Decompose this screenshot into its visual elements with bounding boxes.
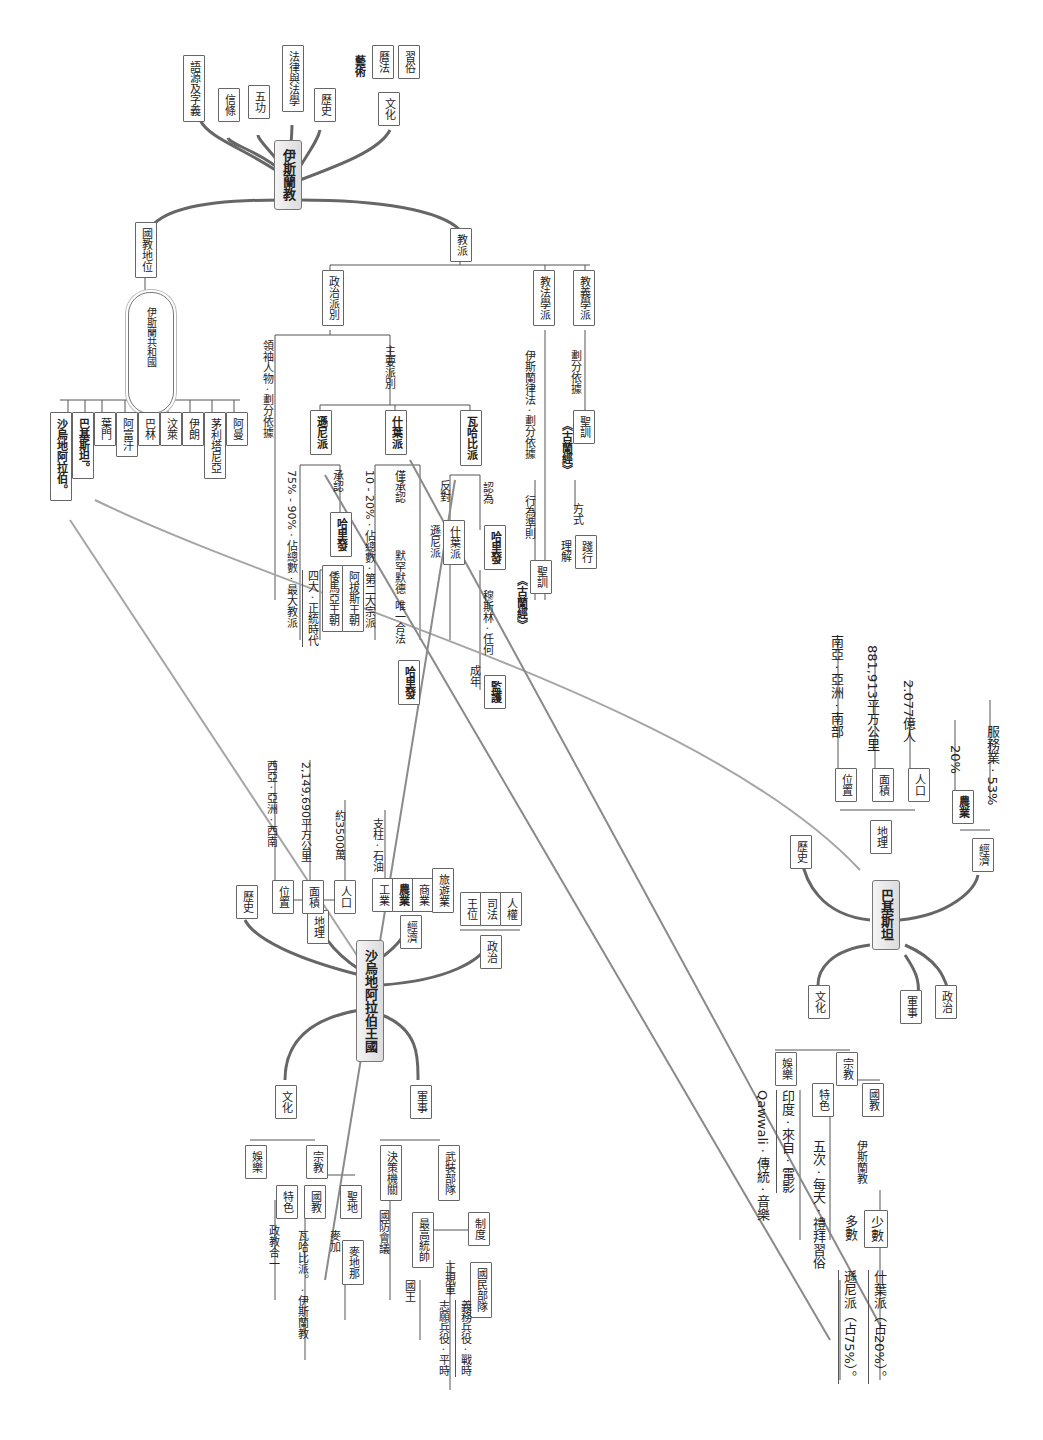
pak-node-population[interactable]: 人口 xyxy=(908,768,930,802)
node-shia-sub[interactable]: 什葉派 xyxy=(443,520,465,565)
node-wahhabi[interactable]: 瓦哈比派 xyxy=(460,410,482,466)
node-sunni[interactable]: 遜尼派 xyxy=(310,410,332,455)
node-umayyad[interactable]: 倭馬亞王朝 xyxy=(322,565,344,632)
country-bahrain[interactable]: 巴林 xyxy=(138,412,160,446)
node-wahhabi-caliph[interactable]: 哈里發 xyxy=(484,525,506,570)
country-yemen[interactable]: 葉門 xyxy=(94,412,116,446)
node-theology-school[interactable]: 教義學派 xyxy=(573,270,595,326)
country-oman[interactable]: 阿曼 xyxy=(226,412,248,446)
country-mauritania[interactable]: 茅利塔尼亞 xyxy=(204,412,226,479)
saudi-node-armed-forces[interactable]: 武裝部隊 xyxy=(438,1145,460,1201)
pak-node-military[interactable]: 軍事 xyxy=(900,990,922,1024)
text-code-of-conduct: 行為準則 xyxy=(520,495,538,539)
pak-node-entertainment[interactable]: 娛樂 xyxy=(775,1052,797,1086)
node-sunni-caliph[interactable]: 哈里發 xyxy=(330,512,352,557)
text-shia-acknowledge: 僅承認 xyxy=(390,470,408,503)
saudi-node-decision-body[interactable]: 決策機關 xyxy=(380,1145,402,1201)
pak-node-geography[interactable]: 地理 xyxy=(870,820,892,854)
pakistan-hub-node[interactable]: 巴基斯坦 xyxy=(872,880,900,950)
saudi-node-population[interactable]: 人口 xyxy=(334,880,356,914)
text-understand: 理解 xyxy=(556,540,574,562)
pak-node-area[interactable]: 面積 xyxy=(872,768,894,802)
node-history[interactable]: 歷史 xyxy=(314,88,336,122)
node-shia-caliph[interactable]: 哈里發 xyxy=(398,660,420,705)
text-sunni-acknowledge: 承認 xyxy=(328,470,346,492)
saudi-text-conscription: 義務兵役 · 戰時 xyxy=(455,1300,474,1377)
node-culture[interactable]: 文化 xyxy=(378,92,400,126)
pak-node-history[interactable]: 歷史 xyxy=(790,835,812,869)
node-hadith-2[interactable]: 聖訓 xyxy=(573,410,595,444)
pak-text-islam: 伊斯蘭教 xyxy=(852,1140,870,1184)
pak-node-culture[interactable]: 文化 xyxy=(808,985,830,1019)
saudi-node-system[interactable]: 制度 xyxy=(468,1212,490,1246)
saudi-node-history[interactable]: 歷史 xyxy=(236,885,258,919)
saudi-node-agriculture[interactable]: 農業 xyxy=(392,878,414,912)
country-afghanistan[interactable]: 阿富汗 xyxy=(116,412,138,457)
pak-node-economy[interactable]: 經濟 xyxy=(972,838,994,872)
node-five-pillars[interactable]: 五功 xyxy=(248,85,270,119)
saudi-node-area[interactable]: 面積 xyxy=(302,880,324,914)
node-law[interactable]: 法律與法學 xyxy=(282,45,304,112)
node-customs[interactable]: 習俗 xyxy=(398,45,420,79)
pak-node-state-religion[interactable]: 國教 xyxy=(862,1083,884,1117)
saudi-node-politics[interactable]: 政治 xyxy=(480,935,502,969)
pak-text-film: 印度 · 來自 · 電影 xyxy=(776,1090,797,1193)
saudi-node-entertainment[interactable]: 娛樂 xyxy=(245,1145,267,1179)
country-saudi[interactable]: 沙烏地阿拉伯。 xyxy=(50,412,72,501)
cloud-islamic-republic[interactable]: 伊斯蘭共和國 xyxy=(128,292,174,414)
node-state-religion-status[interactable]: 國教地位 xyxy=(135,222,157,278)
node-guardian[interactable]: 監護 xyxy=(484,675,506,709)
country-iran[interactable]: 伊朗 xyxy=(182,412,204,446)
text-adult: 成年 xyxy=(465,665,483,687)
pak-node-features[interactable]: 特色 xyxy=(812,1083,834,1117)
pak-text-agriculture-pct: 20% xyxy=(945,745,965,774)
country-brunei[interactable]: 汶萊 xyxy=(160,412,182,446)
saudi-node-judiciary[interactable]: 司法 xyxy=(480,892,502,926)
node-hadith-1[interactable]: 聖訓 xyxy=(530,560,552,594)
pak-node-religion[interactable]: 宗教 xyxy=(836,1052,858,1086)
saudi-text-population: 約3500萬 xyxy=(330,810,348,860)
saudi-node-holy-site[interactable]: 聖地 xyxy=(340,1185,362,1219)
pak-text-location: 南亞 · 亞洲 · 南部 xyxy=(826,635,846,738)
node-practice[interactable]: 踐行 xyxy=(575,535,597,569)
text-any-muslim: 穆斯林 · 任何 xyxy=(478,590,496,656)
islam-hub-node[interactable]: 伊斯蘭教 xyxy=(274,140,302,210)
country-pakistan[interactable]: 巴基斯坦。 xyxy=(72,412,94,479)
saudi-node-human-rights[interactable]: 人權 xyxy=(500,892,522,926)
saudi-node-state-religion[interactable]: 國教 xyxy=(304,1185,326,1219)
saudi-node-medina[interactable]: 麥地那 xyxy=(342,1240,364,1285)
text-main-sects: 主要派別 xyxy=(380,345,398,389)
saudi-node-military[interactable]: 軍事 xyxy=(410,1085,432,1119)
text-regard: 認為 xyxy=(478,482,496,504)
saudi-hub-node[interactable]: 沙烏地阿拉伯王國 xyxy=(356,940,384,1062)
saudi-node-tourism[interactable]: 旅遊業 xyxy=(432,868,454,913)
saudi-node-geography[interactable]: 地理 xyxy=(307,910,329,944)
saudi-text-regular-army: 正規軍 xyxy=(440,1262,458,1295)
node-jurisprudence-school[interactable]: 教法學派 xyxy=(533,270,555,326)
saudi-node-economy[interactable]: 經濟 xyxy=(400,915,422,949)
saudi-node-throne[interactable]: 王位 xyxy=(460,892,482,926)
saudi-node-location[interactable]: 位置 xyxy=(272,880,294,914)
pak-node-agriculture[interactable]: 農業 xyxy=(952,790,974,824)
saudi-text-defense-council: 國防會議 xyxy=(374,1210,392,1254)
node-shia[interactable]: 什葉派 xyxy=(385,410,407,455)
saudi-node-religion[interactable]: 宗教 xyxy=(306,1145,328,1179)
saudi-node-commerce[interactable]: 商業 xyxy=(412,878,434,912)
text-quran-1: 《古蘭經》 xyxy=(512,575,530,630)
pak-node-minority[interactable]: 少數 xyxy=(864,1210,888,1248)
saudi-node-culture[interactable]: 文化 xyxy=(275,1085,297,1119)
text-jurisprudence-criterion: 伊斯蘭律法 · 劃分依據 xyxy=(520,350,538,460)
node-calendar[interactable]: 曆法 xyxy=(372,45,394,79)
saudi-node-features[interactable]: 特色 xyxy=(276,1185,298,1219)
cloud-label: 伊斯蘭共和國 xyxy=(143,307,158,367)
node-political-sects[interactable]: 政治派別 xyxy=(322,270,344,326)
node-creed[interactable]: 信條 xyxy=(218,88,240,122)
pak-node-location[interactable]: 位置 xyxy=(835,768,857,802)
node-sects[interactable]: 教派 xyxy=(450,228,472,262)
node-etymology[interactable]: 語源及字義 xyxy=(183,55,205,122)
saudi-node-commander[interactable]: 最高統帥 xyxy=(412,1212,434,1268)
saudi-node-industry[interactable]: 工業 xyxy=(372,878,394,912)
saudi-text-location: 西亞 · 亞洲 · 西南 xyxy=(262,760,280,847)
pak-node-politics[interactable]: 政治 xyxy=(935,985,957,1019)
pak-text-population: 2.077億人 xyxy=(898,680,918,743)
